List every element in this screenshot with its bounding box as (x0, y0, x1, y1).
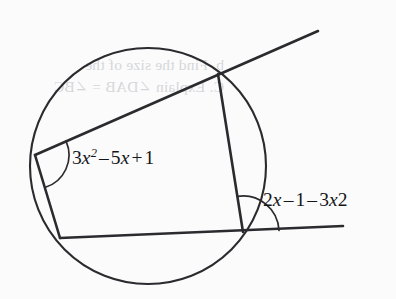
left-var1: x (82, 147, 91, 168)
right-coef1: 2 (263, 189, 273, 210)
geometry-drawing (0, 0, 396, 299)
right-operator1: – (282, 189, 296, 210)
left-side-segment (35, 155, 60, 238)
right-coef2: 3 (319, 189, 329, 210)
right-side-segment (218, 74, 243, 232)
left-operator2: + (129, 147, 144, 168)
right-var1: x (273, 189, 282, 210)
angle-expression-right: 2x–1–3x2 (263, 190, 348, 210)
chord-extended-line (35, 31, 318, 155)
right-constant: 1 (295, 189, 305, 210)
right-operator2: – (305, 189, 319, 210)
right-exponent2: 2 (338, 189, 348, 210)
left-operator1: – (97, 147, 111, 168)
tangent-extended-line (60, 226, 343, 238)
right-var2: x (329, 189, 338, 210)
circle-geometry-figure: b. Find the size of the C. Explain ∠DAB … (0, 0, 396, 299)
left-coef2: 5 (111, 147, 121, 168)
left-coef1: 3 (72, 147, 82, 168)
left-constant: 1 (145, 147, 155, 168)
angle-expression-left: 3x2–5x+1 (72, 148, 154, 168)
